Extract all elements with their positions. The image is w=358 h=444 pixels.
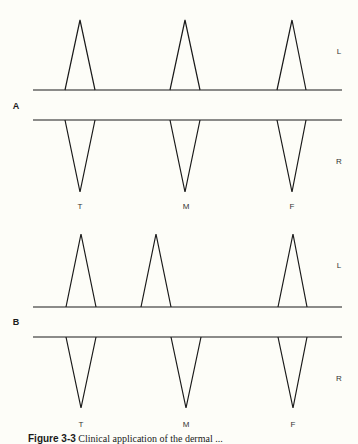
panel-b-peak-label-f: F — [291, 420, 296, 429]
panel-a-up-peak-f — [277, 20, 306, 90]
panel-b-up-peak-f — [278, 234, 307, 307]
panel-b-peak-label-m: M — [183, 420, 190, 429]
panel-b-left-side-label: L — [337, 261, 341, 270]
panel-a-peak-label-t: T — [78, 202, 83, 211]
panel-a-label: A — [13, 101, 20, 111]
panel-a-up-peak-m — [170, 20, 200, 90]
panel-a-peak-label-f: F — [290, 202, 295, 211]
panel-b-down-peak-f — [278, 337, 307, 408]
panel-a-right-side-label: R — [336, 157, 342, 166]
panel-b-up-peak-t — [66, 234, 96, 307]
panel-a-left-side-label: L — [337, 47, 341, 56]
panel-a-peak-label-m: M — [183, 202, 190, 211]
panel-b-down-peak-t — [66, 337, 96, 408]
panel-a-up-peak-t — [65, 20, 95, 90]
figure-number: Figure 3-3 — [28, 433, 76, 444]
panel-b-right-side-label: R — [336, 374, 342, 383]
panel-b-label: B — [13, 317, 20, 327]
panel-a-down-peak-m — [170, 120, 200, 192]
figure-caption: Figure 3-3 Clinical application of the d… — [28, 433, 223, 444]
figure-caption-text: Clinical application of the dermal ... — [78, 433, 222, 444]
panel-b-down-peak-m — [171, 337, 201, 408]
panel-b-up-peak-2 — [141, 234, 171, 307]
panel-a-down-peak-t — [65, 120, 95, 192]
panel-b-peak-label-t: T — [79, 420, 84, 429]
panel-a-down-peak-f — [277, 120, 306, 192]
